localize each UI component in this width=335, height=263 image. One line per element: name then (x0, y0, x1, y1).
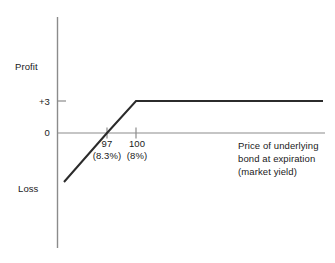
x-axis-caption-line-3: (market yield) (238, 165, 319, 178)
x-axis-tick-sublabel-100: (8%) (114, 150, 160, 162)
y-axis-tick-label-plus3: +3 (26, 96, 50, 108)
chart-plot-area (0, 0, 335, 263)
x-axis-tick-label-100: 100 (129, 138, 145, 149)
x-axis-caption: Price of underlying bond at expiration (… (238, 139, 319, 178)
x-axis-tick-label-97: 97 (102, 138, 113, 149)
x-axis-tick-label-100-group: 100 (8%) (114, 138, 160, 162)
x-axis-caption-line-1: Price of underlying (238, 139, 319, 152)
y-axis-tick-label-zero: 0 (26, 127, 50, 139)
x-axis-caption-line-2: bond at expiration (238, 152, 319, 165)
y-axis-loss-label: Loss (18, 183, 38, 195)
y-axis-profit-label: Profit (15, 61, 38, 73)
payoff-diagram-figure: Profit Loss +3 0 97 (8.3%) 100 (8%) Pric… (0, 0, 335, 263)
